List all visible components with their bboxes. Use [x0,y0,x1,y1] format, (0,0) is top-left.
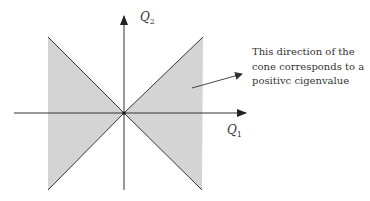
q1-axis-label: Q1 [227,123,242,139]
cone-diagram: Q2 Q1 [0,0,370,201]
annotation-text: This direction of the cone corresponds t… [252,45,370,89]
annotation-line-1: This direction of the [252,45,370,60]
q2-axis-label: Q2 [140,10,155,26]
annotation-line-2: cone corresponds to a [252,60,370,75]
origin-point [122,111,125,114]
annotation-line-3: positivc cigenvalue [252,74,370,89]
